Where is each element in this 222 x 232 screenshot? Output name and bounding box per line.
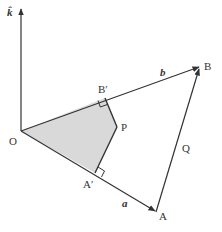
shaded-region xyxy=(21,98,117,173)
k-hat-label: k̂ xyxy=(7,6,13,18)
label-vector-b: b xyxy=(160,66,166,78)
label-vector-a: a xyxy=(122,197,128,209)
label-aprime: A′ xyxy=(83,178,93,190)
label-o: O xyxy=(9,135,17,147)
label-a-point: A xyxy=(159,210,167,222)
vector-projection-diagram: k̂ O B′ P A′ A B Q a b xyxy=(0,0,222,232)
label-p: P xyxy=(121,121,127,133)
label-b-point: B xyxy=(204,60,211,72)
label-bprime: B′ xyxy=(98,83,108,95)
right-angle-marker-aprime xyxy=(98,167,105,177)
label-q: Q xyxy=(182,142,190,154)
line-ab xyxy=(156,69,199,212)
